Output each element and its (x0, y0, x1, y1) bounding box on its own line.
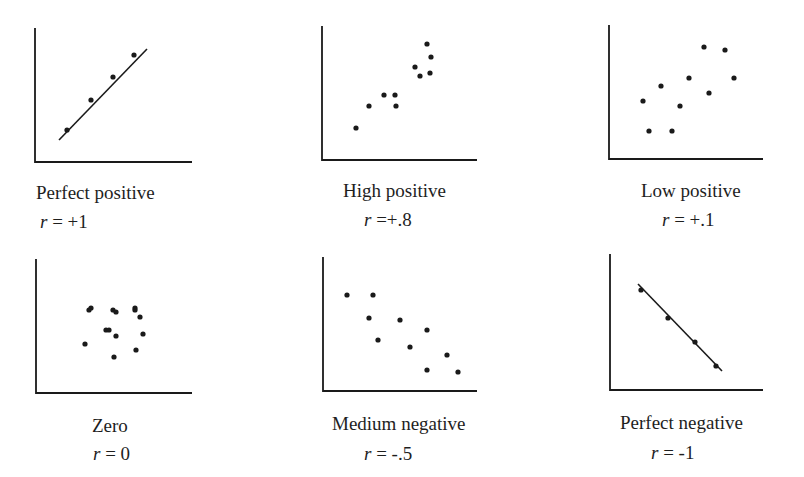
panel-title-2: High positive (343, 181, 446, 200)
correlation-value-label-3: r = +.1 (662, 210, 715, 229)
panel-title-6: Perfect negative (620, 413, 743, 432)
panel-labels: Perfect positiver = +1High positiver =+.… (0, 0, 804, 477)
panel-title-5: Medium negative (332, 414, 466, 433)
correlation-diagram: Perfect positiver = +1High positiver =+.… (0, 0, 804, 477)
panel-title-1: Perfect positive (36, 183, 155, 202)
correlation-value-label-2: r =+.8 (364, 210, 412, 229)
correlation-value-label-5: r = -.5 (364, 444, 412, 463)
r-symbol: r (364, 443, 371, 464)
r-symbol: r (364, 209, 371, 230)
correlation-value-label-6: r = -1 (651, 443, 694, 462)
correlation-value-label-4: r = 0 (93, 444, 130, 463)
correlation-value-label-1: r = +1 (40, 212, 88, 231)
panel-title-3: Low positive (641, 181, 741, 200)
r-symbol: r (93, 443, 100, 464)
panel-title-4: Zero (92, 416, 128, 435)
r-symbol: r (662, 209, 669, 230)
r-symbol: r (651, 442, 658, 463)
r-symbol: r (40, 211, 47, 232)
